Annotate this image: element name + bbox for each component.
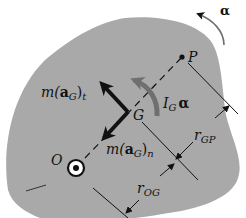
alpha-top-label: α bbox=[220, 3, 230, 18]
rigid-body-kinetics-diagram: α P G O m(aG)t m(aG)n IGα rGP rOG bbox=[0, 0, 246, 218]
point-O-label: O bbox=[51, 152, 63, 168]
point-O-pin-dot bbox=[73, 165, 79, 171]
point-G-label: G bbox=[133, 107, 144, 123]
force-t-label: m(aG)t bbox=[41, 84, 87, 102]
force-n-label: m(aG)n bbox=[106, 141, 154, 159]
point-P-label: P bbox=[187, 49, 198, 65]
point-P-dot bbox=[179, 54, 184, 59]
